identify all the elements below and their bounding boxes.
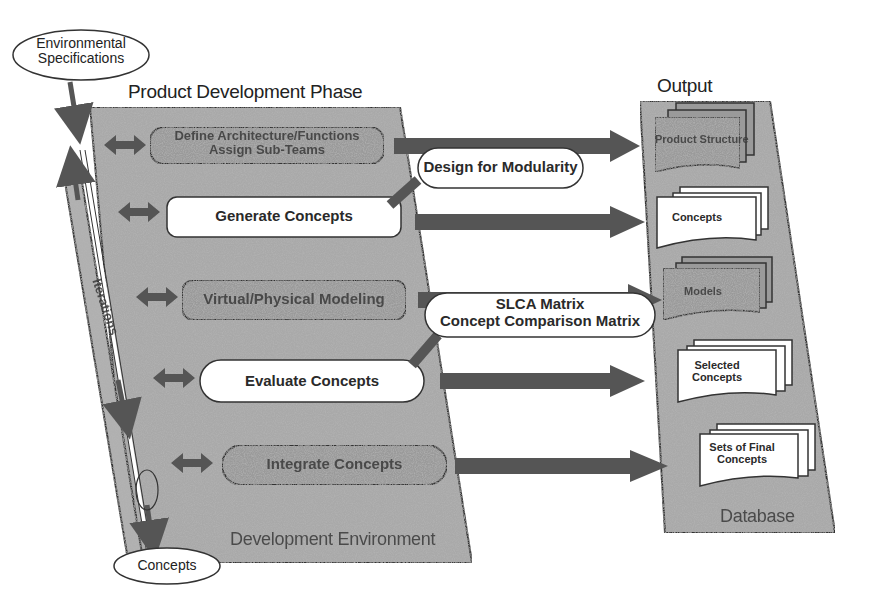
concepts-output-label: Concepts — [114, 558, 220, 573]
development-environment-label: Development Environment — [230, 530, 435, 550]
doc-line: Concepts — [702, 453, 782, 465]
tool-label-design-for-modularity: Design for Modularity — [418, 159, 583, 176]
doc-label-product-structure: Product Structure — [655, 133, 740, 145]
env-spec-line-1: Environmental — [18, 36, 144, 51]
doc-label-sets-of-final-concepts: Sets of Final Concepts — [702, 441, 782, 465]
doc-line: Concepts — [682, 371, 752, 383]
step-label-integrate-concepts: Integrate Concepts — [222, 456, 447, 473]
doc-label-concepts: Concepts — [657, 211, 737, 223]
environmental-specifications-label: Environmental Specifications — [18, 36, 144, 67]
step-label-evaluate-concepts: Evaluate Concepts — [200, 373, 424, 390]
doc-line: Sets of Final — [702, 441, 782, 453]
step-line: Assign Sub-Teams — [150, 143, 384, 157]
step-label-generate-concepts: Generate Concepts — [167, 208, 401, 225]
doc-line: Selected — [682, 359, 752, 371]
development-environment-panel — [90, 107, 472, 563]
tool-label-slca-matrix: SLCA Matrix Concept Comparison Matrix — [425, 296, 655, 329]
output-title: Output — [657, 76, 712, 97]
product-development-phase-title: Product Development Phase — [128, 82, 362, 103]
step-line: Define Architecture/Functions — [150, 129, 384, 143]
database-label: Database — [720, 507, 795, 527]
doc-label-selected-concepts: Selected Concepts — [682, 359, 752, 383]
step-label-virtual-physical-modeling: Virtual/Physical Modeling — [182, 291, 406, 308]
doc-label-models: Models — [663, 285, 743, 297]
tool-line: SLCA Matrix — [425, 296, 655, 313]
step-label-define-architecture: Define Architecture/Functions Assign Sub… — [150, 129, 384, 158]
env-spec-line-2: Specifications — [18, 51, 144, 66]
input-arrow — [70, 82, 77, 125]
tool-line: Concept Comparison Matrix — [425, 313, 655, 330]
